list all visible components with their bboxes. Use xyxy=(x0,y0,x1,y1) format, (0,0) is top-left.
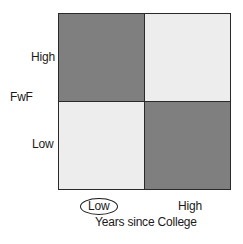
quadrant-top-right xyxy=(145,14,231,102)
quadrant-bottom-left xyxy=(59,102,145,190)
quadrant-grid xyxy=(58,13,231,190)
y-axis-low-label: Low xyxy=(32,137,53,151)
x-axis-title: Years since College xyxy=(95,215,197,229)
x-axis-high-label: High xyxy=(178,199,202,213)
quadrant-top-left xyxy=(59,14,145,102)
quadrant-bottom-right xyxy=(145,102,231,190)
x-axis-low-label: Low xyxy=(88,199,109,213)
y-axis-title: FwF xyxy=(10,90,33,104)
y-axis-high-label: High xyxy=(31,50,55,64)
quadrant-diagram: High FwF Low Low High Years since Colleg… xyxy=(0,0,243,244)
